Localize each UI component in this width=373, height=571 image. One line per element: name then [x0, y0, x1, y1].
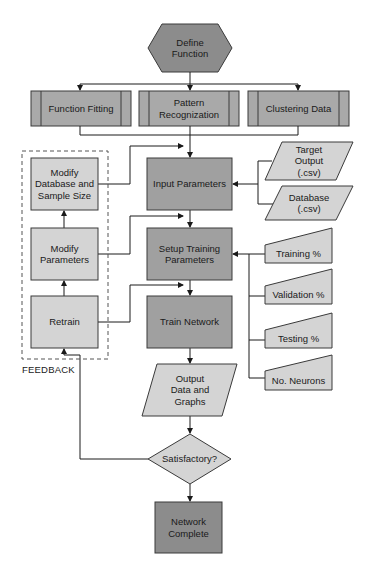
- modify-database-label: Modify Database and Sample Size: [31, 158, 98, 210]
- satisfactory-label: Satisfactory?: [148, 434, 231, 484]
- database-label: Database (.csv): [272, 186, 346, 220]
- no-neurons-label: No. Neurons: [265, 371, 332, 390]
- modify-parameters-label: Modify Parameters: [31, 228, 98, 280]
- setup-training-label: Setup Training Parameters: [147, 228, 232, 280]
- retrain-label: Retrain: [31, 296, 98, 348]
- testing-pct-label: Testing %: [265, 330, 332, 348]
- define-function-label: Define Function: [150, 24, 230, 72]
- pattern-recognization-label: Pattern Recognization: [149, 91, 229, 126]
- train-network-label: Train Network: [147, 296, 232, 348]
- output-data-graphs-label: Output Data and Graphs: [150, 364, 230, 416]
- validation-pct-label: Validation %: [265, 286, 332, 304]
- target-output-label: Target Output (.csv): [272, 142, 346, 180]
- training-pct-label: Training %: [265, 245, 332, 263]
- clustering-data-label: Clustering Data: [258, 91, 339, 126]
- feedback-group-label: FEEDBACK: [22, 364, 75, 375]
- split-connectors: [80, 72, 298, 90]
- network-complete-label: Network Complete: [155, 502, 222, 553]
- function-fitting-label: Function Fitting: [41, 91, 121, 126]
- input-parameters-label: Input Parameters: [147, 158, 232, 210]
